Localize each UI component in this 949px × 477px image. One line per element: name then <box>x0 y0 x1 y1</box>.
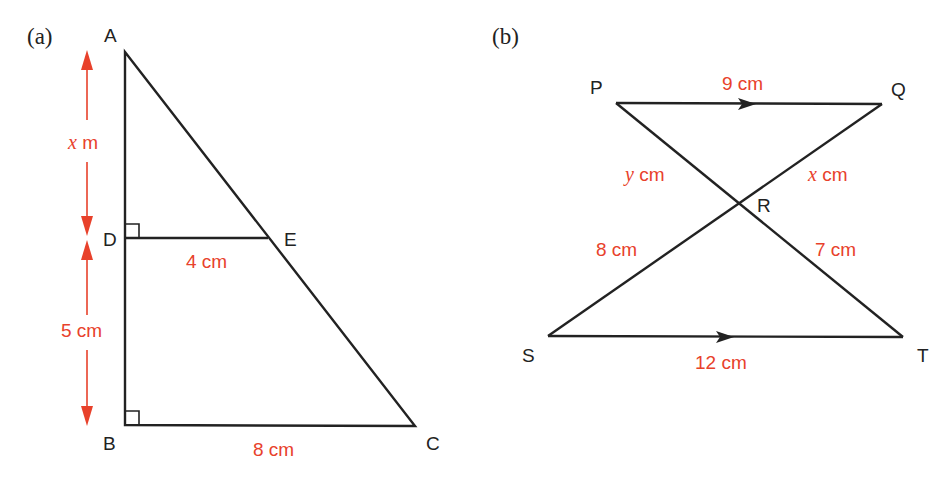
measure-pr: y cm <box>625 164 665 184</box>
point-b-label: B <box>103 434 116 453</box>
variable-x: x <box>808 163 817 185</box>
point-e-label: E <box>284 230 297 249</box>
measure-db: 5 cm <box>61 321 102 340</box>
arrow-down-icon <box>81 406 93 426</box>
measure-ad: x m <box>68 132 98 152</box>
measure-pq: 9 cm <box>722 74 763 93</box>
measure-rt: 7 cm <box>815 240 856 259</box>
point-q-label: Q <box>891 80 906 99</box>
point-c-label: C <box>426 434 440 453</box>
figure-a-tag: (a) <box>27 25 53 48</box>
unit-m: m <box>82 132 98 153</box>
right-angle-b-icon <box>125 411 139 425</box>
figure-a-triangle <box>125 52 415 426</box>
segment-pt <box>616 103 903 337</box>
figure-b-bowtie <box>548 103 903 337</box>
parallel-marks <box>716 98 756 343</box>
point-d-label: D <box>103 230 117 249</box>
arrow-up-icon <box>81 240 93 260</box>
arrow-down-icon <box>81 216 93 236</box>
unit-cm: cm <box>639 164 664 185</box>
measure-qr: x cm <box>808 164 848 184</box>
variable-x: x <box>68 131 77 153</box>
diagram-canvas: (a) A D E B C x m 5 cm 4 cm 8 cm (b) P Q… <box>0 0 949 477</box>
right-angle-d-icon <box>125 224 139 238</box>
arrow-up-icon <box>81 50 93 70</box>
figure-b-tag: (b) <box>492 25 519 48</box>
point-r-label: R <box>757 196 771 215</box>
figure-a-dimension-arrows <box>81 50 93 426</box>
measure-bc: 8 cm <box>253 440 294 459</box>
unit-cm: cm <box>822 164 847 185</box>
point-s-label: S <box>522 346 535 365</box>
variable-y: y <box>625 163 634 185</box>
measure-st: 12 cm <box>695 353 747 372</box>
measure-de: 4 cm <box>186 252 227 271</box>
point-t-label: T <box>917 346 929 365</box>
segment-qs <box>548 104 882 336</box>
point-a-label: A <box>104 26 117 45</box>
point-p-label: P <box>590 78 603 97</box>
geometry-figures <box>0 0 949 477</box>
measure-sr: 8 cm <box>596 240 637 259</box>
